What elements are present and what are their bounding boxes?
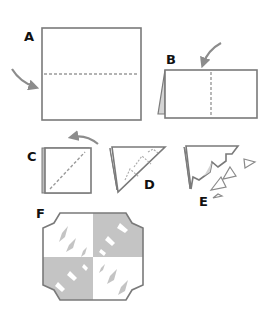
step-d-label: D <box>144 178 155 191</box>
step-b-back-flap <box>158 70 165 114</box>
step-e-label: E <box>199 195 208 208</box>
step-e-piece-4 <box>213 194 222 198</box>
diagram-canvas <box>0 0 270 319</box>
step-a-arrow-icon <box>12 69 35 87</box>
step-c-arrow-icon <box>72 136 98 144</box>
step-f-figure <box>43 213 143 300</box>
step-e-piece-1 <box>244 159 255 168</box>
step-e-piece-2 <box>223 167 236 179</box>
step-b-arrow-icon <box>203 43 221 64</box>
step-d-triangle <box>112 147 165 192</box>
step-c-label: C <box>27 150 37 163</box>
step-f-label: F <box>36 207 45 220</box>
step-f-quadrant-bottom-left <box>43 257 93 300</box>
step-d-figure <box>110 147 165 192</box>
step-f-quadrant-bottom-right <box>93 257 143 300</box>
step-b-label: B <box>166 53 176 66</box>
step-e-figure <box>184 146 255 198</box>
step-a-label: A <box>24 30 34 43</box>
step-c-figure <box>42 136 98 193</box>
